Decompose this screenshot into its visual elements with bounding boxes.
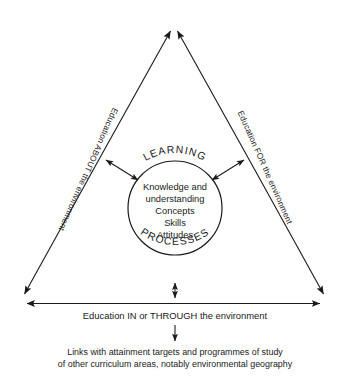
core-line-4: Skills (164, 218, 186, 228)
core-line-2: understanding (146, 194, 205, 204)
right-side-label: Education FOR the environment (236, 109, 295, 226)
core-line-5: Attitudes (157, 230, 194, 240)
core-line-3: Concepts (155, 206, 195, 216)
base-side-label: Education IN or THROUGH the environment (83, 310, 268, 321)
left-side-label: Education ABOUT the environment (56, 106, 120, 233)
diagram-canvas: LEARNING PROCESSES Education ABOUT the e… (0, 0, 348, 382)
learning-arc-label: LEARNING (141, 144, 208, 163)
diagram-svg: LEARNING PROCESSES Education ABOUT the e… (0, 0, 348, 382)
footnote-line-2: of other curriculum areas, notably envir… (58, 359, 293, 369)
circle-left-connector (106, 160, 138, 180)
core-line-1: Knowledge and (143, 182, 207, 192)
right-side-upper-arrow (178, 31, 252, 163)
left-side-upper-arrow (97, 31, 171, 163)
circle-right-connector (212, 160, 244, 180)
right-side-lower-arrow (251, 163, 324, 294)
footnote-line-1: Links with attainment targets and progra… (67, 347, 283, 357)
